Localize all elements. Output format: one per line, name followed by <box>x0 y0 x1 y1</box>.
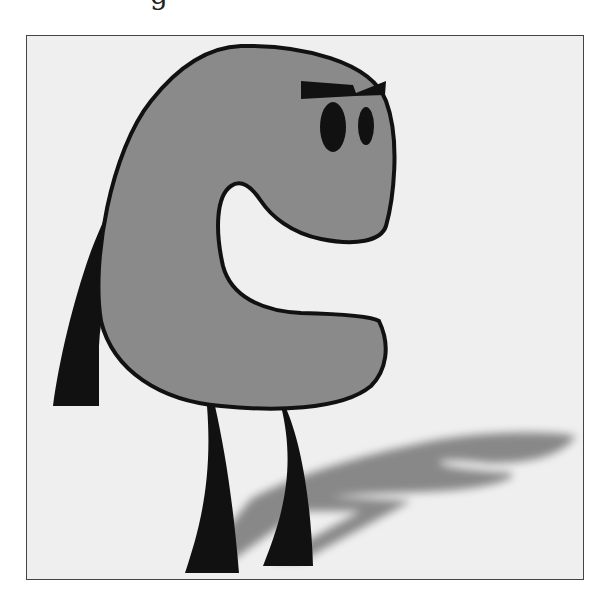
creature-illustration <box>27 36 584 580</box>
left-leg <box>185 406 239 573</box>
left-eye <box>320 102 346 152</box>
right-leg <box>263 406 313 566</box>
cropped-text-fragment: g <box>150 0 168 11</box>
right-eye <box>358 107 374 145</box>
creature-body <box>98 46 394 409</box>
cast-shadow <box>201 432 576 561</box>
illustration-frame <box>26 35 584 580</box>
